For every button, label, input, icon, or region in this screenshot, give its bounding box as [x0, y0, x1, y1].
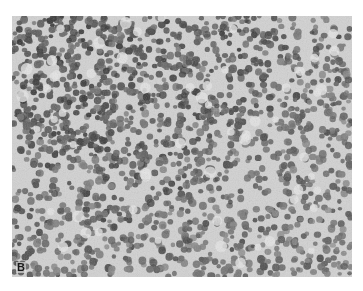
cell-texture: [12, 16, 352, 277]
panel-label: B: [16, 262, 26, 273]
micrograph-image: [12, 16, 352, 277]
